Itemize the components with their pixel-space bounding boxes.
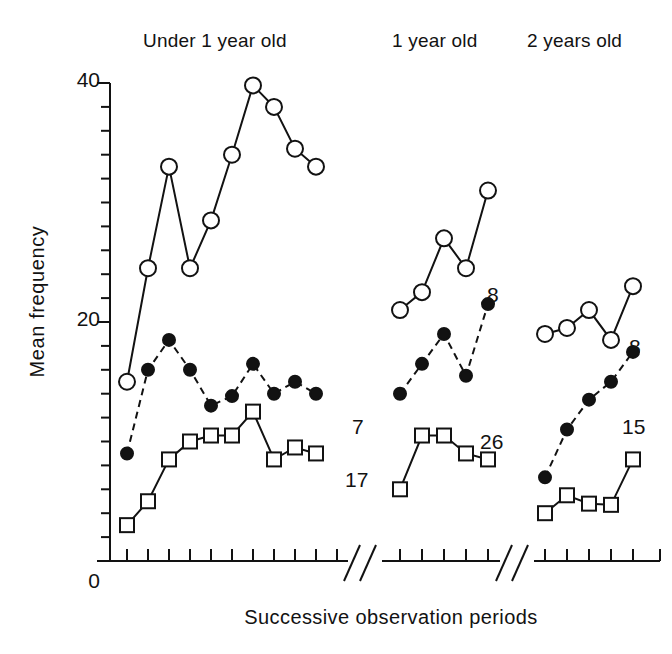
marker-open-circle [182,260,198,276]
y-axis-tick-label-40: 40 [58,68,100,92]
marker-open-circle [625,278,641,294]
marker-open-circle [203,212,219,228]
marker-open-square [437,429,451,443]
marker-open-square [267,452,281,466]
end-label-p1-open-square: 26 [480,430,503,454]
marker-filled-circle [438,328,450,340]
marker-filled-circle [142,364,154,376]
y-axis-tick-label-0: 0 [58,569,100,593]
marker-open-circle [603,332,619,348]
marker-open-circle [458,260,474,276]
marker-open-circle [581,302,597,318]
marker-open-square [309,446,323,460]
marker-filled-circle [460,370,472,382]
marker-open-circle [436,230,452,246]
marker-filled-circle [226,390,238,402]
chart-figure: Under 1 year old 1 year old 2 years old … [0,0,672,654]
marker-open-circle [559,320,575,336]
marker-open-square [246,405,260,419]
marker-open-circle [392,302,408,318]
plot-canvas [0,0,672,654]
axis-break-mark [344,545,360,581]
marker-open-circle [119,374,135,390]
marker-open-square [162,452,176,466]
end-label-p2-open-square: 15 [622,415,645,439]
marker-open-circle [245,77,261,93]
marker-open-circle [140,260,156,276]
marker-filled-circle [121,447,133,459]
y-axis-tick-label-20: 20 [58,307,100,331]
marker-filled-circle [539,471,551,483]
marker-filled-circle [163,334,175,346]
marker-filled-circle [268,388,280,400]
marker-open-circle [161,159,177,175]
marker-open-square [120,518,134,532]
marker-filled-circle [310,388,322,400]
series-line-filled-circle [545,352,633,477]
panel-title-2-years: 2 years old [527,30,622,52]
marker-filled-circle [561,424,573,436]
marker-filled-circle [416,358,428,370]
marker-filled-circle [289,376,301,388]
series-line-filled-circle [400,304,488,394]
marker-open-square [459,446,473,460]
marker-open-square [204,429,218,443]
marker-open-square [288,440,302,454]
series-line-open-circle [127,85,316,381]
marker-open-square [560,488,574,502]
marker-open-circle [414,284,430,300]
end-label-p1-filled-circle: 8 [487,283,499,307]
y-axis-title: Mean frequency [26,192,49,412]
marker-open-square [538,506,552,520]
marker-open-circle [480,183,496,199]
marker-open-circle [266,99,282,115]
marker-open-square [604,498,618,512]
marker-open-square [582,497,596,511]
marker-filled-circle [605,376,617,388]
panel-title-1-year: 1 year old [392,30,477,52]
marker-open-square [141,494,155,508]
marker-filled-circle [394,388,406,400]
marker-filled-circle [205,400,217,412]
axis-break-mark [360,545,376,581]
marker-open-circle [308,159,324,175]
end-label-p0-open-square: 17 [345,468,368,492]
axis-break-mark [512,545,528,581]
marker-open-square [183,435,197,449]
marker-filled-circle [184,364,196,376]
marker-open-circle [537,326,553,342]
marker-filled-circle [247,358,259,370]
end-label-p0-filled-circle: 7 [352,415,364,439]
marker-open-circle [224,147,240,163]
marker-filled-circle [583,394,595,406]
marker-open-square [626,452,640,466]
marker-open-circle [287,141,303,157]
marker-open-square [415,429,429,443]
marker-open-square [393,482,407,496]
panel-title-under-1-year: Under 1 year old [143,30,287,52]
marker-open-square [481,452,495,466]
marker-open-square [225,429,239,443]
x-axis-title: Successive observation periods [110,606,672,629]
axis-break-mark [496,545,512,581]
series-line-open-square [400,436,488,490]
end-label-p2-filled-circle: 8 [629,335,641,359]
axes [97,83,660,581]
data-series [119,77,641,532]
